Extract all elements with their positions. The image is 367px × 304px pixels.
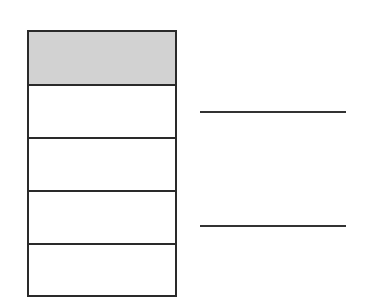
- answer-line: [200, 225, 346, 227]
- stack-cell-shaded: [29, 32, 175, 84]
- stack-cell: [29, 192, 175, 243]
- stack-cell: [29, 245, 175, 295]
- stack-cell: [29, 139, 175, 190]
- stacked-boxes: [27, 30, 177, 297]
- answer-line: [200, 111, 346, 113]
- stack-cell: [29, 86, 175, 137]
